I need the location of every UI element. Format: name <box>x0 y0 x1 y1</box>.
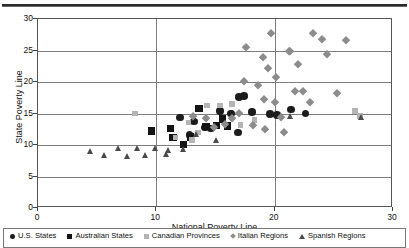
gridline-vertical <box>275 19 276 206</box>
gridline-horizontal <box>38 82 391 83</box>
data-point <box>213 122 221 130</box>
data-point <box>277 113 285 121</box>
data-point <box>309 29 317 37</box>
data-point <box>124 153 130 159</box>
data-point <box>287 106 295 114</box>
x-tick-label: 30 <box>377 213 407 222</box>
data-point <box>240 92 248 100</box>
data-point <box>167 125 175 133</box>
data-point <box>186 120 192 126</box>
data-point <box>235 93 243 101</box>
data-point <box>186 131 194 139</box>
y-tick-label: 30 <box>3 14 33 23</box>
legend-square-icon <box>67 234 72 239</box>
legend-circle-icon <box>10 234 15 239</box>
chart-legend: U.S. StatesAustralian StatesCanadian Pro… <box>3 228 406 248</box>
data-point <box>342 37 350 45</box>
data-point <box>291 87 299 95</box>
data-point <box>264 64 272 72</box>
x-tick-mark <box>392 207 393 211</box>
legend-item[interactable]: U.S. States <box>10 232 56 240</box>
data-point <box>202 123 210 131</box>
x-tick-label: 0 <box>22 213 52 222</box>
data-point <box>318 35 326 43</box>
data-point <box>195 105 203 113</box>
data-point <box>101 152 107 158</box>
x-tick-mark <box>37 207 38 211</box>
data-point <box>115 145 121 151</box>
data-point <box>294 60 302 68</box>
data-point <box>163 151 169 157</box>
data-point <box>260 95 268 103</box>
data-point <box>228 114 236 122</box>
data-point <box>195 130 201 136</box>
data-point <box>142 152 148 158</box>
data-point <box>299 88 307 96</box>
legend-label: Canadian Provinces <box>152 232 220 240</box>
data-point <box>280 129 288 137</box>
data-point <box>249 121 257 129</box>
x-tick-mark <box>155 207 156 211</box>
data-point <box>358 114 364 120</box>
legend-diamond-icon <box>230 233 236 239</box>
legend-item[interactable]: Spanish Regions <box>299 232 365 240</box>
data-point <box>261 125 269 133</box>
data-point <box>234 129 242 137</box>
legend-item[interactable]: Italian Regions <box>231 232 288 240</box>
gridline-horizontal <box>38 177 391 178</box>
data-point <box>306 98 314 106</box>
legend-label: U.S. States <box>18 232 56 240</box>
y-tick-label: 0 <box>3 203 33 212</box>
data-point <box>219 115 227 123</box>
data-point <box>224 122 232 130</box>
data-point <box>229 101 235 107</box>
data-point <box>173 135 179 141</box>
data-point <box>176 114 184 122</box>
data-point <box>169 134 177 142</box>
legend-label: Australian States <box>75 232 132 240</box>
legend-item[interactable]: Australian States <box>67 232 132 240</box>
scatter-chart-figure: 051015202530 0102030 State Poverty Line … <box>0 10 409 248</box>
data-point <box>148 127 156 135</box>
x-tick-mark <box>274 207 275 211</box>
legend-square-icon <box>144 234 149 239</box>
data-point <box>252 117 258 123</box>
data-point <box>202 114 210 122</box>
plot-area <box>37 18 392 207</box>
legend-label: Italian Regions <box>238 232 288 240</box>
gridline-horizontal <box>38 51 391 52</box>
y-axis-title: State Poverty Line <box>14 37 24 177</box>
x-tick-label: 10 <box>140 213 170 222</box>
data-point <box>221 120 229 128</box>
data-point <box>87 148 93 154</box>
legend-label: Spanish Regions <box>308 232 365 240</box>
data-point <box>204 103 210 109</box>
data-point <box>201 124 209 132</box>
data-point <box>210 123 218 131</box>
data-point <box>259 53 267 61</box>
data-point <box>180 146 186 152</box>
legend-items: U.S. StatesAustralian StatesCanadian Pro… <box>10 232 365 240</box>
gridline-horizontal <box>38 114 391 115</box>
data-point <box>193 131 199 137</box>
data-point <box>207 125 215 133</box>
data-point <box>190 118 198 126</box>
data-point <box>238 122 244 128</box>
data-point <box>272 73 280 81</box>
data-point <box>333 89 341 97</box>
data-point <box>213 137 219 143</box>
legend-triangle-icon <box>299 234 305 239</box>
gridline-horizontal <box>38 145 391 146</box>
data-point <box>187 133 195 141</box>
data-point <box>165 147 171 153</box>
data-point <box>248 108 256 116</box>
data-point <box>217 103 223 109</box>
x-tick-label: 20 <box>259 213 289 222</box>
data-point <box>189 137 195 143</box>
legend-item[interactable]: Canadian Provinces <box>144 232 220 240</box>
header-rule <box>2 4 407 7</box>
gridline-vertical <box>156 19 157 206</box>
